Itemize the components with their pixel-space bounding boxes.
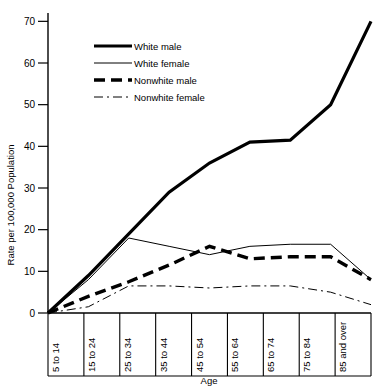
legend-label-nonwhite-male: Nonwhite male — [134, 75, 197, 86]
series-line-nonwhite-male — [48, 246, 371, 313]
legend-label-white-female: White female — [134, 58, 189, 69]
x-tick-label: 45 to 54 — [194, 338, 205, 372]
y-tick-label: 40 — [24, 141, 36, 152]
y-axis-label: Rate per 100,000 Population — [5, 145, 16, 266]
x-tick-label: 15 to 24 — [86, 338, 97, 372]
x-tick-label: 25 to 34 — [122, 338, 133, 372]
x-axis-label: Age — [201, 375, 218, 386]
x-tick-label: 65 to 74 — [265, 338, 276, 372]
series-line-white-female — [48, 238, 371, 313]
y-axis-ticks: 010203040506070 — [24, 16, 48, 319]
y-tick-label: 20 — [24, 224, 36, 235]
y-tick-label: 50 — [24, 99, 36, 110]
chart-legend: White maleWhite femaleNonwhite maleNonwh… — [94, 41, 205, 103]
line-chart-canvas: Rate per 100,000 Population 010203040506… — [0, 0, 384, 388]
x-tick-label: 5 to 14 — [50, 343, 61, 372]
x-tick-label: 55 to 64 — [229, 338, 240, 372]
y-tick-label: 30 — [24, 183, 36, 194]
y-tick-label: 60 — [24, 58, 36, 69]
y-tick-label: 70 — [24, 16, 36, 27]
x-tick-label: 35 to 44 — [158, 338, 169, 372]
x-tick-label: 75 to 84 — [301, 338, 312, 372]
chart-figure: Rate per 100,000 Population 010203040506… — [0, 0, 384, 388]
y-tick-label: 0 — [29, 308, 35, 319]
series-group — [48, 21, 371, 313]
legend-label-white-male: White male — [134, 41, 182, 52]
y-tick-label: 10 — [24, 266, 36, 277]
y-axis-label-group: Rate per 100,000 Population — [5, 145, 16, 266]
series-line-nonwhite-female — [48, 286, 371, 313]
x-axis-tick-labels: 5 to 1415 to 2425 to 3435 to 4445 to 545… — [50, 322, 348, 372]
legend-label-nonwhite-female: Nonwhite female — [134, 92, 205, 103]
series-line-white-male — [48, 21, 371, 313]
x-tick-label: 85 and over — [337, 322, 348, 372]
